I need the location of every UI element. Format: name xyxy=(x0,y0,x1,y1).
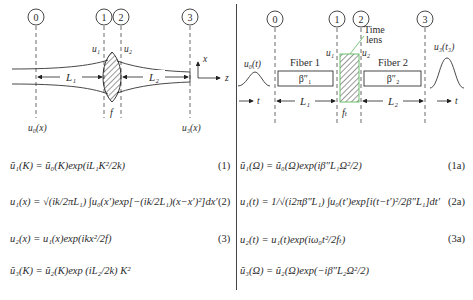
svg-text:2: 2 xyxy=(359,14,364,25)
u1-label: u₁ xyxy=(92,44,100,54)
time-lens-label-line2: lens xyxy=(366,34,382,45)
left-panel-spatial: 0 1 2 3 xyxy=(12,9,229,134)
plane-marker-0: 0 xyxy=(267,11,283,27)
equation-1a-number: (1a) xyxy=(448,160,465,171)
u3x-label: u₃(x) xyxy=(182,123,201,134)
equation-3: u₂(x) = u₁(x)exp(ikx²/2f) xyxy=(10,233,111,244)
svg-text:3: 3 xyxy=(423,14,428,25)
beta1-label: β″₁ xyxy=(299,73,312,84)
u2-label: u₂ xyxy=(362,48,371,58)
u1-label: u₁ xyxy=(326,48,334,58)
L2-label: L₂ xyxy=(387,95,398,107)
right-panel-temporal: 0 1 2 3 u₀(t) t Fiber 1 β″₁ xyxy=(238,11,464,126)
u0t-label: u₀(t) xyxy=(244,59,261,70)
xz-axes-icon: x z xyxy=(198,54,229,83)
ft-label: fₜ xyxy=(342,107,348,118)
equation-2a: u₁(t) = 1/√(i2πβ″L₁) ∫u₀(t′)exp[i(t−t′)²… xyxy=(240,196,440,207)
output-pulse-icon xyxy=(430,58,464,88)
plane-marker-1: 1 xyxy=(329,11,345,27)
equation-3-number: (3) xyxy=(218,233,230,244)
t-axis-label: t xyxy=(455,96,458,106)
u0x-label: u₀(x) xyxy=(28,123,47,134)
L1-label: L₁ xyxy=(299,95,310,107)
equation-4: ũ₃(K) = ũ₂(K)exp (iL₂/2k) K² xyxy=(10,265,130,276)
equation-2: u₁(x) = √(ik/2πL₁) ∫u₀(x′)exp[−(ik/2L₁)(… xyxy=(10,196,218,207)
svg-text:3: 3 xyxy=(188,12,193,23)
u3t-label: u₃(t₃) xyxy=(434,42,454,53)
lens-icon xyxy=(103,52,121,102)
u2-label: u₂ xyxy=(124,44,133,54)
equation-2-number: (2) xyxy=(218,196,230,207)
svg-text:2: 2 xyxy=(119,12,124,23)
input-pulse-icon xyxy=(238,72,270,86)
equation-3a: u₂(t) = u₁(t)exp(iω₀t²/2fₜ) xyxy=(240,233,345,245)
plane-marker-0: 0 xyxy=(28,9,44,25)
equation-3a-number: (3a) xyxy=(448,233,465,244)
L2-label: L₂ xyxy=(148,71,159,83)
svg-text:z: z xyxy=(224,73,229,83)
equation-1-number: (1) xyxy=(218,160,230,171)
plane-marker-3: 3 xyxy=(182,9,198,25)
time-lens-icon xyxy=(340,54,359,102)
svg-text:0: 0 xyxy=(273,14,278,25)
fiber2-label: Fiber 2 xyxy=(378,57,408,68)
equation-1: ũ₁(K) = ũ₀(K)exp(iL₁K²/2k) xyxy=(10,160,125,171)
t-axis-label: t xyxy=(257,96,260,106)
plane-marker-1: 1 xyxy=(96,9,112,25)
fiber1-label: Fiber 1 xyxy=(290,57,320,68)
svg-text:1: 1 xyxy=(335,14,340,25)
plane-marker-3: 3 xyxy=(417,11,433,27)
plane-marker-2: 2 xyxy=(113,9,129,25)
equation-1a: ũ₁(Ω) = ũ₀(Ω)exp(iβ″L₁Ω²/2) xyxy=(240,160,362,171)
beta2-label: β″₂ xyxy=(387,73,400,84)
panel-divider xyxy=(236,4,237,290)
svg-text:1: 1 xyxy=(102,12,107,23)
svg-text:0: 0 xyxy=(34,12,39,23)
equation-4a: ũ₃(Ω) = ũ₂(Ω)exp(−iβ″L₂Ω²/2) xyxy=(240,265,369,276)
focal-length-label: f xyxy=(110,107,114,118)
equation-2a-number: (2a) xyxy=(448,196,465,207)
svg-text:x: x xyxy=(202,54,208,64)
L1-label: L₁ xyxy=(65,71,76,83)
